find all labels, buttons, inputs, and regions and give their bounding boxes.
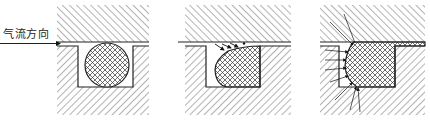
- panel-3: [320, 5, 425, 115]
- o-ring-deformed: [215, 46, 260, 87]
- panel-2: [178, 5, 291, 115]
- seal-diagram: [0, 0, 430, 127]
- panel-1: [57, 5, 149, 115]
